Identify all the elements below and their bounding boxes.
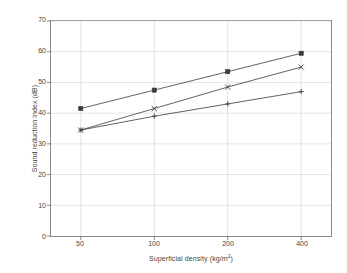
data-series	[51, 21, 331, 236]
plot-area	[50, 20, 332, 237]
x-tick-label: 200	[213, 240, 243, 248]
x-tick-label: 400	[287, 240, 317, 248]
y-axis-label: Sound reduction index (dB)	[28, 20, 42, 237]
x-axis-tick-labels: 50100200400	[50, 240, 332, 252]
x-axis-label: Superficial density (kg/m2)	[50, 253, 332, 262]
x-axis-label-text: Superficial density (kg/m	[149, 255, 228, 262]
x-tick-label: 100	[139, 240, 169, 248]
x-tick-label: 50	[65, 240, 95, 248]
chart-figure: 010203040506070 Sound reduction index (d…	[0, 0, 347, 273]
x-axis-label-tail: )	[231, 255, 233, 262]
